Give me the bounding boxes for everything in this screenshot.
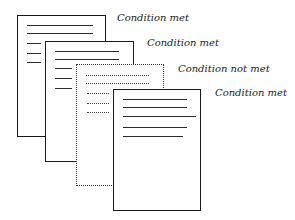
condition-label: Condition not met xyxy=(178,64,270,74)
text-line-icon xyxy=(87,103,109,104)
document-stack-diagram: Condition metCondition metCondition not … xyxy=(0,0,295,220)
text-line-icon xyxy=(87,112,109,113)
text-line-icon xyxy=(27,25,93,26)
text-line-icon xyxy=(27,43,41,44)
condition-label: Condition met xyxy=(215,88,287,98)
text-line-icon xyxy=(55,88,72,89)
text-line-icon xyxy=(123,99,187,100)
text-line-icon xyxy=(87,93,109,94)
text-line-icon xyxy=(55,51,119,52)
text-line-icon xyxy=(55,59,119,60)
condition-label: Condition met xyxy=(117,13,189,23)
text-line-icon xyxy=(86,83,149,84)
text-line-icon xyxy=(123,116,196,117)
text-line-icon xyxy=(123,136,183,137)
text-line-icon xyxy=(27,53,41,54)
text-line-icon xyxy=(27,33,93,34)
text-line-icon xyxy=(86,75,149,76)
text-line-icon xyxy=(55,68,72,69)
text-line-icon xyxy=(27,62,41,63)
text-line-icon xyxy=(123,127,187,128)
condition-label: Condition met xyxy=(147,38,219,48)
text-line-icon xyxy=(55,78,72,79)
text-line-icon xyxy=(123,107,187,108)
